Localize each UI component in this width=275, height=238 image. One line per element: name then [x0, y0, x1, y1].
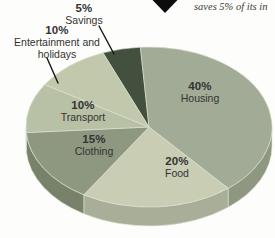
slice-name-housing: Housing — [181, 93, 220, 105]
slice-pct-transport: 10% — [61, 99, 106, 112]
slice-pct-clothing: 15% — [75, 133, 114, 146]
page: saves 5% of its in 5% Savings 10% Entert… — [0, 0, 275, 238]
slice-name-clothing: Clothing — [75, 146, 114, 158]
slice-label-savings: 5% Savings — [65, 2, 102, 27]
pie-slices — [26, 47, 272, 226]
slice-label-entertainment: 10% Entertainment and holidays — [14, 24, 100, 60]
slice-label-housing: 40% Housing — [181, 80, 220, 105]
slice-label-transport: 10% Transport — [61, 99, 106, 124]
slice-label-clothing: 15% Clothing — [75, 133, 114, 158]
down-triangle-icon — [153, 0, 178, 13]
slice-pct-housing: 40% — [181, 80, 220, 93]
slice-pct-savings: 5% — [65, 2, 102, 15]
caption-text: saves 5% of its in — [194, 1, 268, 12]
slice-label-food: 20% Food — [165, 155, 189, 180]
slice-name-food: Food — [165, 168, 189, 180]
slice-name-entertainment: Entertainment and holidays — [14, 37, 100, 61]
slice-name-transport: Transport — [61, 112, 106, 124]
savings-leader-line — [99, 26, 114, 54]
slice-pct-food: 20% — [165, 155, 189, 168]
slice-pct-entertainment: 10% — [14, 24, 100, 37]
